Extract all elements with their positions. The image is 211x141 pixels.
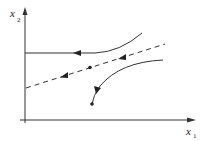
x-axis-label: x bbox=[185, 125, 191, 137]
x-axis-arrowhead-icon bbox=[187, 118, 196, 123]
dashed-separatrix bbox=[26, 44, 165, 88]
upper-trajectory bbox=[25, 33, 142, 56]
separatrix-arrow-left-icon bbox=[60, 72, 68, 78]
trajectory-endpoint bbox=[90, 102, 94, 106]
phase-portrait-diagram: x 2 x 1 bbox=[0, 0, 211, 141]
y-axis-label: x bbox=[9, 7, 15, 19]
y-axis-arrowhead-icon bbox=[23, 7, 28, 15]
lower-trajectory-arrow-icon bbox=[94, 86, 101, 94]
separatrix-arrow-right-icon bbox=[118, 54, 126, 60]
axes bbox=[20, 7, 196, 123]
x-axis-subscript: 1 bbox=[193, 132, 197, 140]
equilibrium-point bbox=[88, 66, 92, 70]
lower-trajectory bbox=[90, 60, 163, 106]
upper-trajectory-arrow-icon bbox=[73, 50, 81, 56]
y-axis-subscript: 2 bbox=[17, 16, 21, 24]
